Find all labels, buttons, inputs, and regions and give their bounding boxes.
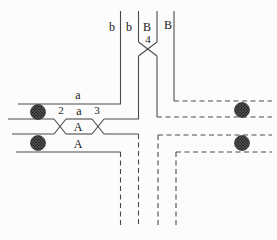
label-4-4: 4 <box>145 33 151 45</box>
label-a-5: a <box>75 88 81 102</box>
label-b-0: b <box>109 20 115 34</box>
junction-diagram: bbBB4a2a3AA <box>0 0 277 240</box>
label-B-2: B <box>143 20 151 34</box>
hatched-circle-left-upper <box>31 105 46 120</box>
solid-road-line-6 <box>104 56 139 119</box>
label-b-1: b <box>126 20 132 34</box>
label-3-8: 3 <box>94 104 100 116</box>
label-2-6: 2 <box>58 104 64 116</box>
label-A-10: A <box>74 137 83 151</box>
hatched-circle-left-lower <box>31 136 46 151</box>
junction-diagram-canvas: bbBB4a2a3AA <box>0 0 277 240</box>
label-B-3: B <box>164 18 172 32</box>
label-a-7: a <box>76 104 82 118</box>
solid-road-line-0 <box>18 11 121 104</box>
hatched-circle-right-lower <box>235 136 250 151</box>
label-A-9: A <box>74 120 83 134</box>
hatched-circle-right-upper <box>235 103 250 118</box>
